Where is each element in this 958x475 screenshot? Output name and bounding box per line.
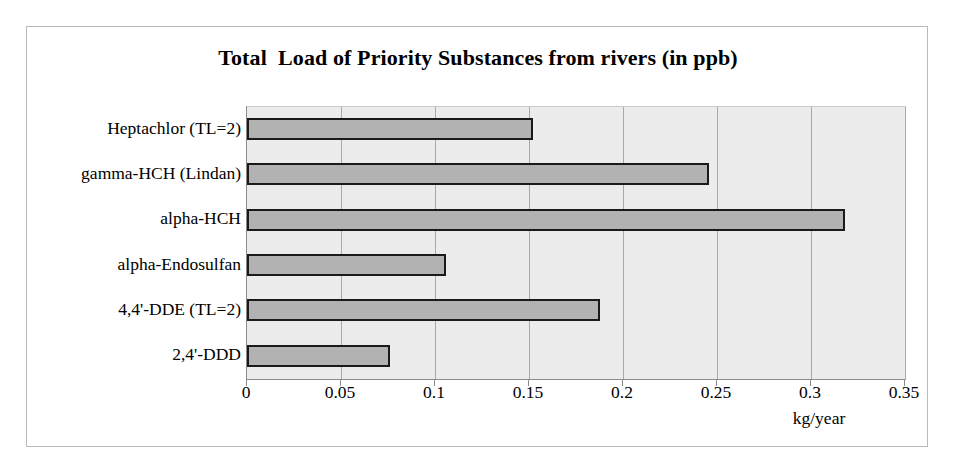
- x-axis-title-text: kg/year: [793, 408, 845, 428]
- plot-area: [246, 106, 906, 380]
- y-axis-label: alpha-HCH: [41, 210, 241, 228]
- bar: [247, 299, 600, 321]
- bar-row: [247, 243, 905, 288]
- x-tick-mark: [904, 379, 905, 386]
- bar-row: [247, 107, 905, 152]
- bar-row: [247, 334, 905, 379]
- chart-figure: Total Load of Priority Substances from r…: [0, 0, 958, 475]
- x-tick-mark: [434, 379, 435, 386]
- x-tick-mark: [810, 379, 811, 386]
- x-tick-mark: [340, 379, 341, 386]
- y-axis-label: 4,4'-DDE (TL=2): [41, 301, 241, 319]
- chart-frame: Total Load of Priority Substances from r…: [26, 26, 928, 447]
- y-axis-label: alpha-Endosulfan: [41, 256, 241, 274]
- bar: [247, 345, 390, 367]
- x-axis-title: kg/year: [27, 408, 929, 429]
- x-tick-mark: [622, 379, 623, 386]
- bar-row: [247, 288, 905, 333]
- x-axis-tick-labels: 00.050.10.150.20.250.30.35: [246, 382, 904, 408]
- bar-row: [247, 152, 905, 197]
- bar: [247, 118, 533, 140]
- bar: [247, 254, 446, 276]
- bar: [247, 163, 709, 185]
- chart-title: Total Load of Priority Substances from r…: [27, 45, 929, 71]
- y-axis-label: 2,4'-DDD: [41, 346, 241, 364]
- y-axis-label: Heptachlor (TL=2): [41, 120, 241, 138]
- x-tick-mark: [716, 379, 717, 386]
- x-tick-mark: [246, 379, 247, 386]
- bar: [247, 209, 845, 231]
- gridline: [905, 107, 906, 379]
- y-axis-label: gamma-HCH (Lindan): [41, 165, 241, 183]
- x-tick-mark: [528, 379, 529, 386]
- bar-row: [247, 198, 905, 243]
- y-axis-category-labels: Heptachlor (TL=2)gamma-HCH (Lindan)alpha…: [36, 106, 241, 378]
